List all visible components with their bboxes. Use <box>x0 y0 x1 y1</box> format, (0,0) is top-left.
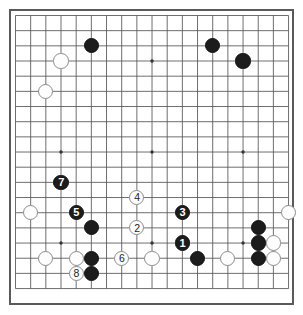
goban-surface[interactable] <box>9 9 294 305</box>
go-board-diagram: 75432168 <box>0 0 303 315</box>
